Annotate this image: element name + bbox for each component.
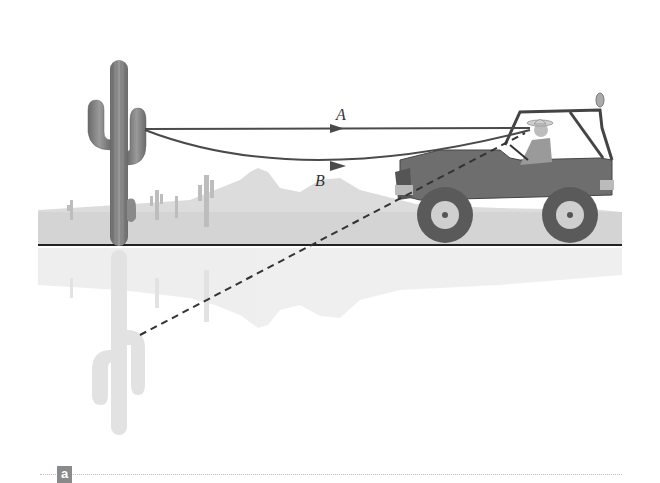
panel-label: a — [57, 466, 72, 483]
mirage-diagram: A B — [0, 0, 660, 483]
ray-a: A — [145, 106, 530, 133]
rear-wheel — [542, 187, 598, 243]
mirage-reflection — [38, 248, 622, 435]
front-wheel — [417, 187, 473, 243]
panel-divider — [40, 474, 622, 475]
ray-b-label: B — [315, 172, 325, 189]
ray-a-label: A — [335, 106, 346, 123]
